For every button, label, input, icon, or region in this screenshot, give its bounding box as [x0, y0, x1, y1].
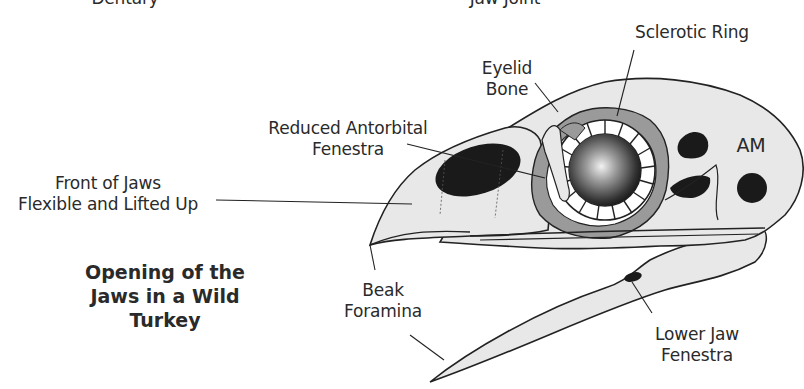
title-line2: Jaws in a Wild [70, 284, 260, 308]
label-beak-line1: Beak [338, 280, 428, 301]
turkey-skull-diagram: Dentary Jaw Joint Sclerotic Ring Eyelid … [0, 0, 804, 389]
label-front-line1: Front of Jaws [0, 173, 216, 194]
label-dentary: Dentary [60, 0, 190, 9]
label-lower-jaw-fenestra: Lower Jaw Fenestra [642, 324, 752, 366]
label-eyelid-line2: Bone [472, 79, 542, 100]
label-eyelid-bone: Eyelid Bone [472, 58, 542, 100]
title-line3: Turkey [70, 308, 260, 332]
diagram-title: Opening of the Jaws in a Wild Turkey [70, 260, 260, 332]
label-front-line2: Flexible and Lifted Up [0, 194, 216, 215]
label-am: AM [726, 135, 776, 156]
label-antorbital-line1: Reduced Antorbital [248, 118, 448, 139]
ear-opening [737, 173, 767, 203]
label-jaw-joint: Jaw Joint [440, 0, 570, 9]
label-eyelid-line1: Eyelid [472, 58, 542, 79]
title-line1: Opening of the [70, 260, 260, 284]
label-antorbital-line2: Fenestra [248, 139, 448, 160]
label-beak-foramina: Beak Foramina [338, 280, 428, 322]
label-sclerotic-ring: Sclerotic Ring [612, 22, 772, 43]
eyeball [569, 134, 641, 206]
label-reduced-antorbital-fenestra: Reduced Antorbital Fenestra [248, 118, 448, 160]
label-lower-jaw-line1: Lower Jaw [642, 324, 752, 345]
label-front-of-jaws: Front of Jaws Flexible and Lifted Up [0, 173, 216, 215]
label-lower-jaw-line2: Fenestra [642, 345, 752, 366]
label-beak-line2: Foramina [338, 301, 428, 322]
